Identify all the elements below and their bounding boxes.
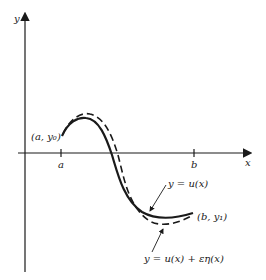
- solid-curve-label: y = u(x): [167, 178, 208, 189]
- tick-a-label: a: [58, 159, 64, 170]
- tick-b-label: b: [191, 159, 197, 170]
- solid-curve-pointer: [150, 185, 166, 211]
- dashed-curve-label: y = u(x) + εη(x): [143, 253, 224, 264]
- end-point-label: (b, y₁): [197, 211, 227, 222]
- x-axis-label: x: [245, 157, 251, 168]
- start-point-label: (a, y₀): [31, 131, 61, 142]
- dashed-curve-pointer: [152, 229, 163, 252]
- perturbed-curve: [63, 114, 193, 225]
- variational-diagram: y x a b (a, y₀) (b, y₁) y = u(x) y = u(x…: [0, 0, 266, 280]
- extremal-curve: [62, 118, 193, 218]
- y-axis-label: y: [13, 13, 20, 24]
